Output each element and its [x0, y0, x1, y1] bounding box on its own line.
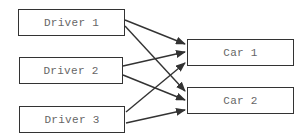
driver-3-label: Driver 3: [44, 114, 99, 126]
driver-1-label: Driver 1: [44, 17, 99, 29]
arrow-driver1-to-car1: [125, 20, 185, 44]
car-2-label: Car 2: [223, 95, 258, 107]
driver-2-label: Driver 2: [43, 65, 98, 77]
arrow-driver3-to-car1: [126, 63, 185, 112]
driver-3-box: Driver 3: [19, 106, 125, 133]
driver-1-box: Driver 1: [18, 9, 125, 36]
driver-car-diagram: Driver 1 Driver 2 Driver 3 Car 1 Car 2: [0, 0, 308, 139]
driver-2-box: Driver 2: [19, 57, 123, 84]
arrow-driver3-to-car2: [126, 110, 185, 123]
car-1-label: Car 1: [223, 47, 258, 59]
car-2-box: Car 2: [187, 87, 294, 114]
arrow-driver2-to-car2: [123, 75, 185, 100]
arrow-driver2-to-car1: [123, 52, 185, 66]
car-1-box: Car 1: [187, 39, 294, 66]
